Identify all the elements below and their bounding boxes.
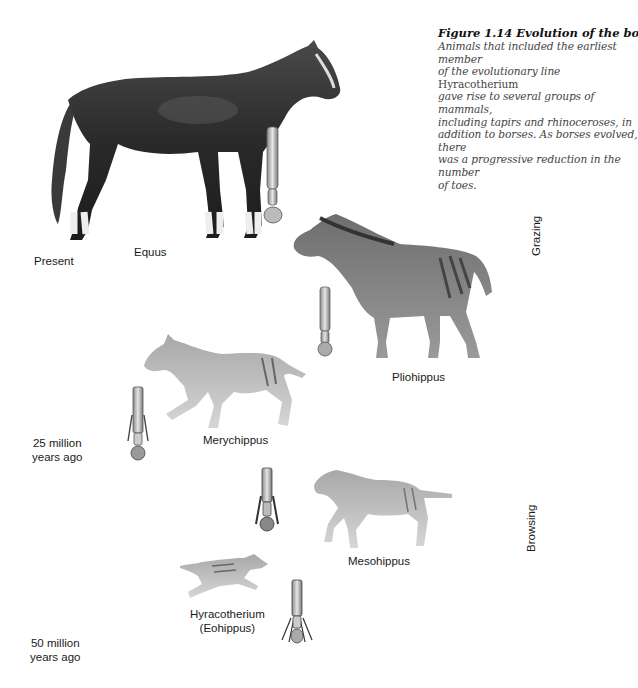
- diet-label-grazing: Grazing: [530, 216, 542, 256]
- time-label-50mya: 50 million years ago: [30, 636, 81, 664]
- caption-genus: Hyracotherium: [438, 78, 518, 90]
- merychippus-foot-bones: [126, 385, 150, 463]
- hyracotherium-foot-bones: [280, 578, 314, 648]
- equus-foot-bones: [262, 125, 284, 225]
- figure-caption: Figure 1.14 Evolution of the borse. Anim…: [438, 26, 638, 191]
- species-label-merychippus: Merychippus: [203, 433, 268, 447]
- time-label-50mya-line2: years ago: [30, 650, 81, 664]
- time-label-50mya-line1: 50 million: [30, 636, 81, 650]
- species-label-mesohippus: Mesohippus: [348, 554, 410, 568]
- caption-line: gave rise to several groups of mammals,: [438, 90, 638, 115]
- merychippus-illustration: [142, 330, 307, 430]
- time-label-present: Present: [34, 254, 74, 268]
- mesohippus-illustration: [312, 468, 454, 550]
- hyracotherium-illustration: [178, 552, 270, 600]
- species-label-pliohippus: Pliohippus: [392, 370, 445, 384]
- caption-line: including tapirs and rhinoceroses, in: [438, 116, 638, 129]
- caption-line: addition to borses. As borses evolved, t…: [438, 128, 638, 153]
- caption-line: Animals that included the earliest membe…: [438, 40, 638, 65]
- caption-line-text: of the evolutionary line: [438, 65, 560, 77]
- caption-line: of toes.: [438, 179, 638, 192]
- species-label-hyracotherium: Hyracotherium (Eohippus): [190, 607, 265, 635]
- caption-body: Animals that included the earliest membe…: [438, 40, 638, 191]
- time-label-25mya-line2: years ago: [32, 450, 83, 464]
- mesohippus-foot-bones: [254, 466, 280, 538]
- caption-title: Figure 1.14 Evolution of the borse.: [438, 26, 638, 40]
- species-label-equus: Equus: [134, 245, 167, 259]
- species-alt-name-eohippus: (Eohippus): [190, 621, 265, 635]
- caption-line: of the evolutionary line Hyracotherium: [438, 65, 638, 90]
- time-label-25mya-line1: 25 million: [32, 436, 83, 450]
- species-name-hyracotherium: Hyracotherium: [190, 607, 265, 621]
- diet-label-browsing: Browsing: [525, 505, 537, 552]
- time-label-25mya: 25 million years ago: [32, 436, 83, 464]
- caption-line: was a progressive reduction in the numbe…: [438, 153, 638, 178]
- pliohippus-foot-bones: [316, 285, 334, 357]
